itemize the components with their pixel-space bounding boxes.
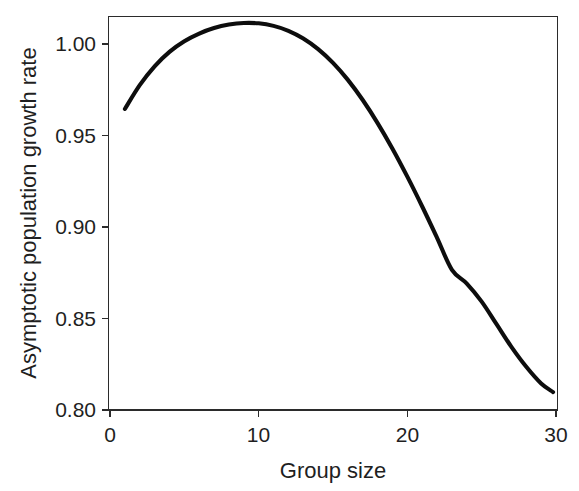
x-axis-ticks (110, 410, 556, 417)
growth-rate-curve (125, 23, 553, 392)
x-axis-title: Group size (280, 458, 386, 483)
y-tick-label-1.00: 1.00 (55, 32, 96, 55)
x-tick-label-30: 30 (544, 423, 567, 446)
plot-frame (109, 17, 558, 411)
y-tick-label-0.90: 0.90 (55, 215, 96, 238)
y-tick-label-0.95: 0.95 (55, 124, 96, 147)
y-tick-label-0.80: 0.80 (55, 398, 96, 421)
chart-figure: 1.00 0.95 0.90 0.85 0.80 0 10 20 30 Grou… (0, 0, 579, 491)
y-axis-title: Asymptotic population growth rate (16, 47, 41, 378)
x-tick-label-10: 10 (247, 423, 270, 446)
x-tick-label-20: 20 (396, 423, 419, 446)
y-axis-ticks (102, 44, 109, 410)
line-chart: 1.00 0.95 0.90 0.85 0.80 0 10 20 30 Grou… (0, 0, 579, 491)
y-tick-label-0.85: 0.85 (55, 307, 96, 330)
x-tick-label-0: 0 (104, 423, 116, 446)
